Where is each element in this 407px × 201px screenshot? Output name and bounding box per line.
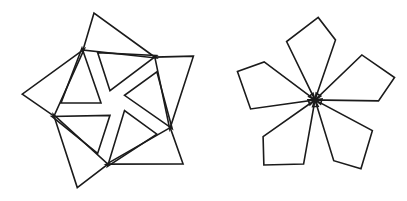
pentagon-flower-figure (228, 17, 400, 183)
petal-3 (250, 83, 342, 184)
large-triangle-0 (83, 13, 156, 58)
triangle-pinwheel-figure (19, 13, 213, 200)
petal-4 (228, 55, 328, 129)
large-triangle-3 (27, 115, 113, 194)
small-triangle-1 (98, 36, 163, 91)
small-triangle-2 (125, 72, 190, 140)
large-triangle-4 (19, 35, 84, 118)
petal-0 (287, 17, 336, 106)
large-triangle-2 (106, 121, 192, 200)
drawing-canvas (0, 0, 407, 201)
petal-2 (295, 78, 387, 179)
pentagon-flower-center-knot (313, 98, 317, 102)
petal-1 (300, 47, 400, 121)
two-figure-line-drawing (0, 0, 407, 201)
small-triangle-4 (45, 98, 110, 153)
